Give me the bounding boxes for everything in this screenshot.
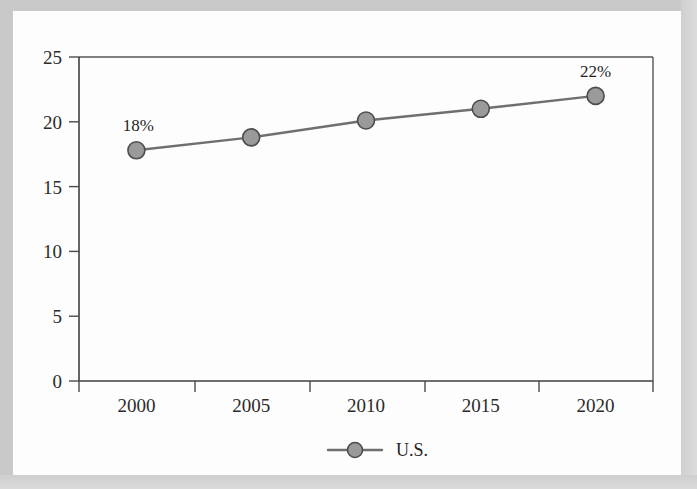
data-label-first: 18% bbox=[123, 116, 154, 135]
y-axis-tick-labels: 25 20 15 10 5 0 bbox=[43, 47, 62, 392]
y-tick-label: 10 bbox=[43, 241, 62, 262]
line-chart: 25 20 15 10 5 0 2000 2005 2010 2015 2020 bbox=[0, 0, 697, 489]
y-tick-label: 25 bbox=[43, 47, 62, 68]
data-point-marker bbox=[358, 112, 375, 129]
legend-label-us: U.S. bbox=[396, 440, 428, 460]
legend-marker-icon bbox=[348, 443, 363, 458]
x-tick-label: 2015 bbox=[462, 395, 500, 416]
chart-figure: 25 20 15 10 5 0 2000 2005 2010 2015 2020 bbox=[0, 0, 697, 489]
x-tick-label: 2000 bbox=[117, 395, 155, 416]
y-tick-label: 5 bbox=[53, 306, 63, 327]
data-point-marker bbox=[128, 142, 145, 159]
x-tick-label: 2010 bbox=[347, 395, 385, 416]
data-point-marker bbox=[243, 129, 260, 146]
data-point-marker bbox=[587, 87, 604, 104]
data-label-last: 22% bbox=[580, 62, 611, 81]
x-tick-label: 2020 bbox=[577, 395, 615, 416]
y-axis-ticks bbox=[69, 57, 79, 381]
series-markers-us bbox=[128, 87, 604, 158]
y-tick-label: 0 bbox=[53, 371, 63, 392]
x-tick-label: 2005 bbox=[232, 395, 270, 416]
x-axis-ticks bbox=[79, 381, 653, 392]
chart-legend: U.S. bbox=[328, 440, 428, 460]
y-tick-label: 20 bbox=[43, 112, 62, 133]
data-point-marker bbox=[472, 100, 489, 117]
x-axis-tick-labels: 2000 2005 2010 2015 2020 bbox=[117, 395, 614, 416]
plot-area-border bbox=[79, 57, 653, 381]
y-tick-label: 15 bbox=[43, 177, 62, 198]
